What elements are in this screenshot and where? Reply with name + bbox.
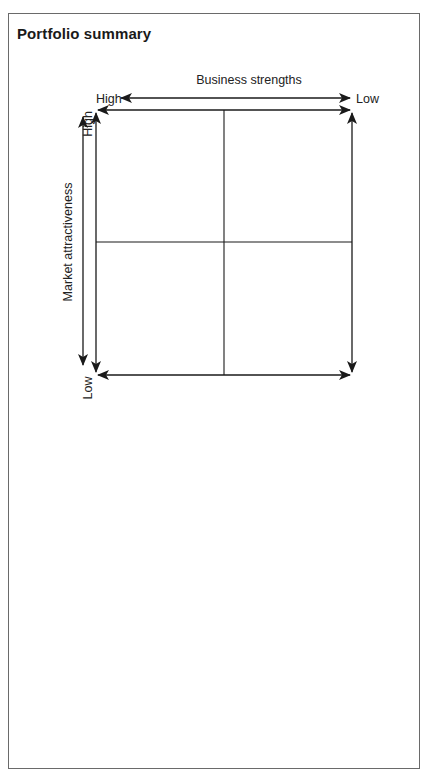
- portfolio-matrix-diagram: Business strengths High Low Market attra…: [0, 0, 428, 771]
- x-axis-label: Business strengths: [196, 73, 302, 87]
- quadrant-top-left: [97, 111, 224, 242]
- quadrant-bottom-left: [97, 242, 224, 374]
- quadrant-top-right: [224, 111, 351, 242]
- y-axis-label: Market attractiveness: [61, 183, 75, 302]
- x-axis-high-label: High: [96, 92, 122, 106]
- quadrant-bottom-right: [224, 242, 351, 374]
- y-axis-low-label: Low: [81, 376, 95, 400]
- x-axis-low-label: Low: [356, 92, 380, 106]
